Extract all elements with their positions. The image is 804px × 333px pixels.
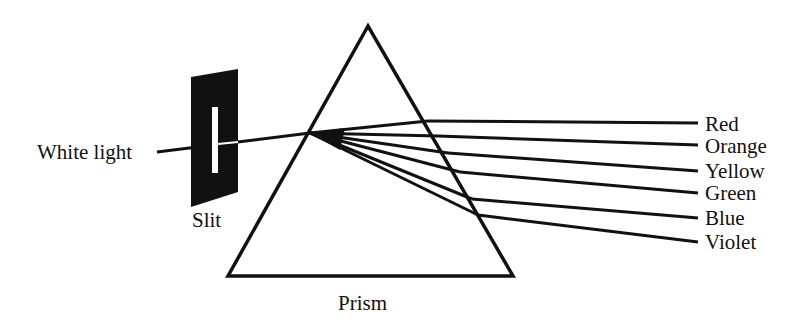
ray-violet	[478, 215, 698, 242]
label-yellow: Yellow	[705, 159, 766, 183]
label-violet: Violet	[705, 230, 756, 254]
label-orange: Orange	[705, 134, 767, 158]
ray-blue	[472, 199, 698, 218]
label-green: Green	[705, 181, 757, 205]
prism-dispersion-diagram: White light Slit Prism Red Orange Yellow…	[0, 0, 804, 333]
label-blue: Blue	[705, 206, 745, 230]
slit-opening	[212, 107, 218, 173]
emergent-rays	[428, 121, 698, 242]
spectrum-labels: Red Orange Yellow Green Blue Violet	[705, 112, 767, 254]
ray-red	[428, 121, 698, 123]
slit-label: Slit	[192, 208, 221, 232]
ray-green	[460, 172, 698, 193]
prism-label: Prism	[338, 291, 387, 315]
ray-yellow	[448, 153, 698, 171]
label-red: Red	[705, 112, 739, 136]
prism	[228, 26, 513, 276]
ray-orange	[438, 136, 698, 145]
white-light-label: White light	[37, 140, 132, 164]
